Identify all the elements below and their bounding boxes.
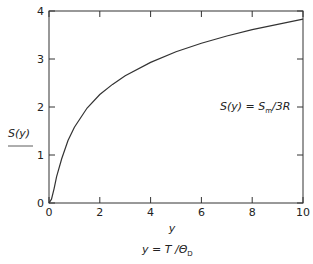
x-tick-label: 6 — [198, 206, 205, 219]
y-tick-label: 1 — [37, 149, 44, 162]
x-tick-label: 2 — [96, 206, 103, 219]
y-tick-label: 0 — [37, 197, 44, 210]
y-tick-label: 2 — [37, 101, 44, 114]
y-axis-label: S(y) — [8, 127, 30, 140]
chart: 024681001234 S(y) y y = T /ΘD S(y) = Sm/… — [0, 0, 313, 264]
x-tick-label: 8 — [249, 206, 256, 219]
x-tick-label: 4 — [147, 206, 154, 219]
x-tick-label: 0 — [46, 206, 53, 219]
annotation: S(y) = Sm/3R — [220, 100, 290, 115]
x-axis-label: y — [168, 222, 176, 235]
y-tick-label: 4 — [37, 5, 44, 18]
x-tick-label: 10 — [296, 206, 310, 219]
y-tick-label: 3 — [37, 53, 44, 66]
x-definition: y = T /ΘD — [141, 243, 193, 258]
